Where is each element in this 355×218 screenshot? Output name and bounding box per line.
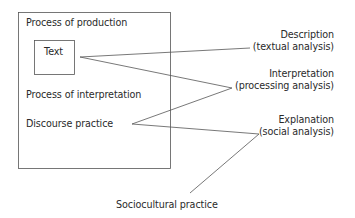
process-of-interpretation-label: Process of interpretation (26, 89, 141, 101)
process-of-production-label: Process of production (26, 17, 127, 29)
explanation-subtitle: (social analysis) (259, 126, 334, 138)
interpretation-label: Interpretation (processing analysis) (235, 68, 334, 92)
interpretation-title: Interpretation (235, 68, 334, 80)
description-title: Description (253, 29, 334, 41)
description-label: Description (textual analysis) (253, 29, 334, 53)
explanation-title: Explanation (259, 114, 334, 126)
discourse-practice-label: Discourse practice (26, 118, 113, 130)
text-to-description-line (80, 48, 250, 88)
explanation-label: Explanation (social analysis) (259, 114, 334, 138)
sociocultural-practice-label: Sociocultural practice (116, 199, 218, 211)
description-subtitle: (textual analysis) (253, 41, 334, 53)
text-label: Text (44, 46, 63, 58)
discourse-to-interpretation-line (132, 88, 259, 134)
interpretation-subtitle: (processing analysis) (235, 80, 334, 92)
explanation-to-sociocultural-line (190, 134, 259, 193)
